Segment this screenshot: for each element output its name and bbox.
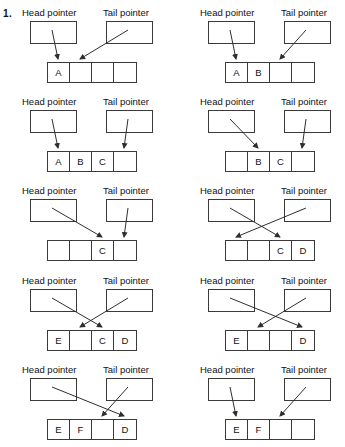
queue-step-panel: Head pointerTail pointerECD bbox=[0, 268, 172, 357]
head-pointer-arrow bbox=[230, 387, 236, 416]
tail-pointer-arrow bbox=[236, 208, 306, 237]
head-pointer-arrow bbox=[52, 387, 124, 416]
queue-step-panel: Head pointerTail pointerC bbox=[0, 178, 172, 267]
tail-pointer-arrow bbox=[302, 119, 306, 148]
queue-step-panel: Head pointerTail pointerCD bbox=[178, 178, 345, 267]
head-pointer-arrow bbox=[52, 119, 58, 148]
pointer-arrows bbox=[178, 0, 345, 89]
head-pointer-arrow bbox=[230, 208, 280, 237]
tail-pointer-arrow bbox=[102, 387, 128, 416]
head-pointer-arrow bbox=[52, 208, 102, 237]
queue-step-panel: Head pointerTail pointerAB bbox=[178, 0, 345, 89]
head-pointer-arrow bbox=[52, 30, 58, 59]
pointer-arrows bbox=[0, 268, 172, 357]
pointer-arrows bbox=[178, 268, 345, 357]
tail-pointer-arrow bbox=[280, 387, 306, 416]
tail-pointer-arrow bbox=[124, 119, 128, 148]
pointer-arrows bbox=[178, 89, 345, 178]
tail-pointer-arrow bbox=[124, 208, 128, 237]
pointer-arrows bbox=[0, 357, 172, 446]
tail-pointer-arrow bbox=[80, 30, 128, 59]
tail-pointer-arrow bbox=[80, 298, 128, 327]
pointer-arrows bbox=[0, 0, 172, 89]
queue-step-panel: Head pointerTail pointerED bbox=[178, 268, 345, 357]
queue-step-panel: Head pointerTail pointerBC bbox=[178, 89, 345, 178]
pointer-arrows bbox=[0, 178, 172, 267]
queue-step-panel: Head pointerTail pointerEFD bbox=[0, 357, 172, 446]
head-pointer-arrow bbox=[230, 30, 236, 59]
pointer-arrows bbox=[178, 357, 345, 446]
pointer-arrows bbox=[0, 89, 172, 178]
queue-step-panel: Head pointerTail pointerABC bbox=[0, 89, 172, 178]
head-pointer-arrow bbox=[230, 119, 258, 148]
queue-step-panel: Head pointerTail pointerEF bbox=[178, 357, 345, 446]
tail-pointer-arrow bbox=[280, 30, 306, 59]
head-pointer-arrow bbox=[52, 298, 102, 327]
queue-step-panel: 1.Head pointerTail pointerA bbox=[0, 0, 172, 89]
pointer-arrows bbox=[178, 178, 345, 267]
